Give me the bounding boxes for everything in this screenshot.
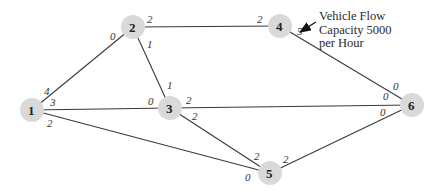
edge-3-6	[170, 105, 412, 108]
edge-1-5	[32, 110, 270, 173]
edge-label-1-5-at-5: 0	[245, 171, 251, 183]
node-label: 4	[276, 19, 283, 34]
node-6: 6	[400, 93, 424, 117]
edge-label-2-3-at-2: 1	[147, 38, 153, 50]
edge-label-2-4-at-4: 2	[257, 13, 263, 25]
annotation-line-2: Capacity 5000	[319, 24, 392, 38]
edge-1-3	[32, 108, 170, 110]
node-label: 2	[129, 20, 136, 35]
annotation-line-1: Vehicle Flow	[319, 10, 392, 24]
edge-label-1-3-at-3: 0	[148, 95, 154, 107]
edge-label-4-6-at-6: 0	[393, 80, 399, 92]
edge-label-3-6-at-6: 0	[383, 90, 389, 102]
edge-5-6	[270, 105, 412, 173]
node-label: 3	[166, 101, 173, 116]
node-4: 4	[268, 14, 292, 38]
node-label: 1	[28, 103, 35, 118]
edge-3-5	[170, 108, 270, 173]
network-diagram: 1 2 3 4 5 6	[0, 0, 441, 194]
node-2: 2	[121, 15, 145, 39]
edge-label-5-6-at-6: 0	[380, 106, 386, 118]
edge-label-3-6-at-3: 2	[186, 94, 192, 106]
node-label: 6	[408, 98, 415, 113]
edge-label-4-6-at-4: 5	[297, 25, 303, 37]
edge-label-1-2-at-2: 0	[110, 30, 116, 42]
edge-label-3-5-at-5: 2	[254, 150, 260, 162]
edge-label-2-3-at-3: 1	[167, 79, 173, 91]
capacity-annotation: Vehicle Flow Capacity 5000 per Hour	[319, 10, 392, 51]
node-5: 5	[258, 161, 282, 185]
node-3: 3	[158, 96, 182, 120]
edge-2-4	[133, 26, 280, 27]
edge-label-5-6-at-5: 2	[283, 153, 289, 165]
edge-1-2	[32, 27, 133, 110]
annotation-line-3: per Hour	[319, 37, 392, 51]
edge-label-2-4-at-2: 2	[147, 13, 153, 25]
node-1: 1	[20, 98, 44, 122]
edge-label-3-5-at-3: 2	[192, 110, 198, 122]
edge-label-1-5-at-1: 2	[47, 117, 53, 129]
edge-label-1-3-at-1: 3	[49, 96, 56, 108]
node-label: 5	[266, 166, 273, 181]
